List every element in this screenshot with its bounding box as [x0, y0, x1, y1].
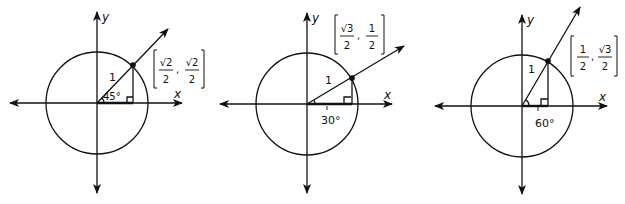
y-axis-label: y [526, 13, 535, 27]
svg-text:√3: √3 [599, 44, 612, 55]
point-coordinates: √2 2 , √2 2 [154, 50, 204, 88]
point-on-circle [546, 59, 550, 63]
radius-label: 1 [109, 71, 116, 84]
diagram-45-degrees [10, 12, 182, 193]
radius-label: 1 [528, 63, 535, 76]
svg-text:2: 2 [344, 40, 350, 51]
svg-text:2: 2 [602, 61, 608, 72]
unit-circle-diagrams: 1 45° x y √2 2 , √2 2 1 30° x y √3 2 , [0, 0, 625, 204]
svg-text:√2: √2 [186, 57, 199, 68]
x-axis-label: x [383, 88, 392, 102]
angle-label: 45° [103, 91, 121, 102]
svg-text:√3: √3 [341, 23, 354, 34]
point-on-circle [350, 76, 354, 80]
point-on-circle [131, 63, 135, 67]
diagram-60-degrees [435, 7, 607, 194]
diagram-30-degrees [220, 13, 404, 193]
svg-text:1: 1 [580, 44, 586, 55]
angle-label: 30° [321, 114, 341, 127]
point-coordinates: 1 2 , √3 2 [571, 36, 617, 76]
x-axis-label: x [173, 87, 182, 101]
svg-text:1: 1 [369, 23, 375, 34]
svg-text:,: , [591, 51, 594, 62]
svg-text:,: , [176, 64, 179, 75]
svg-text:√2: √2 [160, 57, 173, 68]
y-axis-label: y [101, 10, 110, 24]
angle-label: 60° [535, 117, 555, 130]
svg-text:2: 2 [369, 40, 375, 51]
radius-label: 1 [325, 74, 332, 87]
svg-text:2: 2 [163, 74, 169, 85]
point-coordinates: √3 2 , 1 2 [335, 15, 384, 54]
svg-text:,: , [357, 30, 360, 41]
y-axis-label: y [311, 11, 320, 25]
svg-text:2: 2 [189, 74, 195, 85]
svg-text:2: 2 [580, 61, 586, 72]
x-axis-label: x [598, 90, 607, 104]
